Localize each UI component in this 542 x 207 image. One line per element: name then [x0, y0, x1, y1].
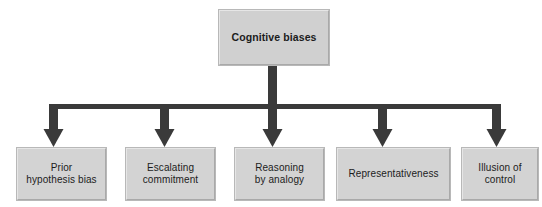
branch-stem-1 — [49, 104, 58, 131]
branch-stem-4 — [378, 104, 387, 131]
branch-arrowhead-2 — [155, 129, 175, 147]
branch-stem-2 — [160, 104, 169, 131]
leaf-node-escalating-commitment: Escalating commitment — [126, 148, 215, 200]
root-node-label: Cognitive biases — [228, 31, 319, 43]
cognitive-biases-diagram: Cognitive biases Prior hypothesis bias E… — [0, 0, 542, 207]
branch-arrowhead-1 — [44, 129, 64, 147]
branch-stem-3 — [268, 104, 277, 131]
root-stem — [268, 64, 277, 109]
leaf-node-illusion-of-control: Illusion of control — [462, 148, 538, 200]
branch-stem-5 — [492, 104, 501, 131]
branch-arrowhead-4 — [373, 129, 393, 147]
leaf-node-reasoning-by-analogy: Reasoning by analogy — [235, 148, 324, 200]
leaf-node-label: Illusion of control — [475, 162, 524, 186]
root-node-cognitive-biases: Cognitive biases — [219, 10, 329, 65]
leaf-node-prior-hypothesis-bias: Prior hypothesis bias — [17, 148, 106, 200]
leaf-node-label: Reasoning by analogy — [252, 162, 307, 186]
horizontal-bus — [49, 104, 501, 109]
leaf-node-label: Representativeness — [345, 168, 441, 180]
leaf-node-representativeness: Representativeness — [337, 148, 450, 200]
leaf-node-label: Escalating commitment — [140, 162, 201, 186]
branch-arrowhead-3 — [263, 129, 283, 147]
leaf-node-label: Prior hypothesis bias — [23, 162, 99, 186]
branch-arrowhead-5 — [487, 129, 507, 147]
